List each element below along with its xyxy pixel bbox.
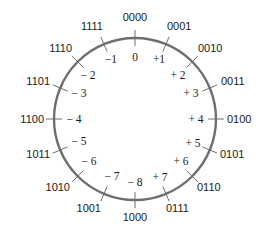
decimal-label-15: −1 — [105, 53, 117, 65]
decimal-label-8: − 8 — [127, 176, 142, 188]
decimal-label-0: 0 — [132, 51, 138, 63]
decimal-label-11: − 5 — [71, 135, 86, 147]
binary-label-6: 0110 — [197, 181, 221, 193]
binary-label-4: 0100 — [227, 113, 251, 125]
binary-label-0: 0000 — [123, 11, 147, 23]
decimal-label-9: − 7 — [104, 170, 119, 182]
decimal-label-1: +1 — [153, 53, 165, 65]
binary-label-15: 1111 — [81, 20, 103, 32]
decimal-label-3: + 3 — [183, 87, 198, 99]
binary-label-14: 1110 — [49, 42, 72, 54]
binary-label-9: 1001 — [77, 202, 101, 214]
binary-label-5: 0101 — [220, 148, 244, 160]
binary-label-8: 1000 — [123, 211, 147, 223]
number-wheel-diagram: 0000 0 0001 +1 0010 + 2 0011 + 3 0100 + … — [0, 0, 268, 232]
binary-label-2: 0010 — [198, 42, 222, 54]
binary-label-1: 0001 — [167, 20, 191, 32]
binary-label-11: 1011 — [26, 148, 50, 160]
decimal-label-13: − 3 — [71, 87, 86, 99]
decimal-label-4: + 4 — [188, 113, 203, 125]
binary-label-13: 1101 — [26, 75, 50, 87]
decimal-label-2: + 2 — [170, 69, 185, 81]
decimal-label-7: + 7 — [152, 171, 167, 183]
decimal-label-14: − 2 — [80, 69, 95, 81]
binary-label-10: 1010 — [46, 181, 70, 193]
binary-label-7: 0111 — [166, 202, 189, 214]
binary-label-3: 0011 — [221, 75, 245, 87]
decimal-label-10: − 6 — [81, 155, 96, 167]
decimal-label-5: + 5 — [185, 137, 200, 149]
decimal-label-12: − 4 — [66, 113, 81, 125]
decimal-label-6: + 6 — [173, 155, 188, 167]
binary-label-12: 1100 — [20, 113, 44, 125]
